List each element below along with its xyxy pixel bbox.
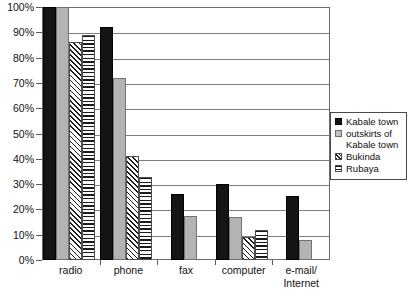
bar bbox=[286, 196, 299, 261]
legend-swatch bbox=[335, 153, 342, 160]
bar bbox=[100, 27, 113, 260]
bar bbox=[255, 230, 268, 260]
y-tick-label: 50% bbox=[13, 129, 34, 139]
bar bbox=[43, 7, 56, 260]
x-category-label: radio bbox=[42, 264, 100, 277]
y-tick-label: 40% bbox=[13, 154, 34, 164]
y-tick-label: 80% bbox=[13, 53, 34, 63]
legend-swatch bbox=[335, 118, 342, 125]
y-axis: 0%10%20%30%40%50%60%70%80%90%100% bbox=[0, 0, 42, 260]
legend-item: Rubaya bbox=[335, 163, 403, 174]
bar-chart: 0%10%20%30%40%50%60%70%80%90%100% radiop… bbox=[0, 0, 408, 303]
bar bbox=[82, 35, 95, 260]
y-tick-label: 30% bbox=[13, 179, 34, 189]
bar bbox=[126, 156, 139, 260]
legend-swatch bbox=[335, 130, 342, 137]
bar bbox=[229, 217, 242, 260]
x-category-label: computer bbox=[215, 264, 273, 277]
y-tick-label: 90% bbox=[13, 27, 34, 37]
x-category-label: phone bbox=[100, 264, 158, 277]
bar bbox=[139, 177, 152, 260]
legend-item: Kabale town bbox=[335, 116, 403, 127]
y-tick-label: 0% bbox=[19, 255, 34, 265]
y-tick-label: 100% bbox=[7, 2, 34, 12]
bars-layer bbox=[42, 7, 330, 260]
y-tick-label: 60% bbox=[13, 103, 34, 113]
legend-item: outskirts of Kabale town bbox=[335, 128, 403, 150]
bar bbox=[56, 7, 69, 260]
legend-label: outskirts of Kabale town bbox=[346, 128, 398, 150]
bar bbox=[171, 194, 184, 260]
legend-label: Rubaya bbox=[346, 163, 379, 174]
y-tick-label: 20% bbox=[13, 204, 34, 214]
legend-swatch bbox=[335, 165, 342, 172]
x-category-label: e-mail/ Internet bbox=[272, 264, 330, 289]
y-tick-label: 10% bbox=[13, 230, 34, 240]
bar bbox=[113, 78, 126, 260]
bar bbox=[242, 237, 255, 260]
bar bbox=[299, 240, 312, 260]
legend-label: Bukinda bbox=[346, 151, 380, 162]
bar bbox=[184, 216, 197, 260]
x-axis: radiophonefaxcomputere-mail/ Internet bbox=[42, 264, 330, 303]
y-tick-label: 70% bbox=[13, 78, 34, 88]
legend-label: Kabale town bbox=[346, 116, 398, 127]
bar bbox=[216, 184, 229, 260]
legend: Kabale townoutskirts of Kabale townBukin… bbox=[330, 112, 407, 180]
x-category-label: fax bbox=[157, 264, 215, 277]
legend-item: Bukinda bbox=[335, 151, 403, 162]
bar bbox=[69, 42, 82, 260]
